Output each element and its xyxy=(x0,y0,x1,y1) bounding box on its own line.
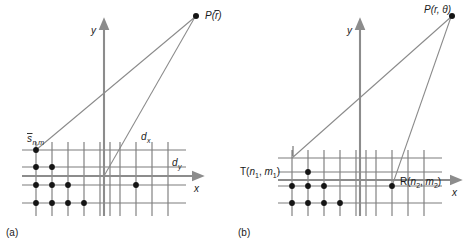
dot xyxy=(49,200,55,206)
dot xyxy=(33,200,39,206)
panel-a-label-source: s n,m xyxy=(27,133,44,146)
dot xyxy=(49,164,55,170)
panel-a-grid-vertical xyxy=(36,142,168,216)
panel-b-label-receiver: R(n2, m2) xyxy=(400,176,441,189)
panel-a-ray-from-origin xyxy=(104,17,195,176)
dot xyxy=(289,183,295,189)
svg-text:R(n2, m2): R(n2, m2) xyxy=(400,176,441,189)
panel-b-label-P: P(r, θ) xyxy=(424,4,451,15)
panel-a-label-dy: d y xyxy=(172,157,182,171)
dot xyxy=(33,182,39,188)
panel-a-label-dx: d x xyxy=(141,131,151,144)
dot xyxy=(133,182,139,188)
panel-b-rays xyxy=(292,17,451,186)
panel-a-dy-subscript: y xyxy=(177,163,182,171)
panel-b-y-axis-label: y xyxy=(346,25,353,36)
panel-a: P(r) s n,m d x d y y x xyxy=(6,10,222,238)
dot xyxy=(33,164,39,170)
panel-a-y-axis-label: y xyxy=(90,25,97,36)
panel-b-x-axis-label: x xyxy=(451,187,458,198)
panel-b-ray-from-transmitter xyxy=(292,17,451,158)
panel-a-ray-from-source xyxy=(36,17,195,150)
dot xyxy=(321,183,327,189)
panel-b-ray-from-receiver xyxy=(392,17,451,186)
svg-text:T(n1, m1): T(n1, m1) xyxy=(240,166,280,179)
panel-b-P-close: ) xyxy=(447,4,451,15)
figure-container: P(r) s n,m d x d y y x xyxy=(0,0,475,252)
dot-transmitter xyxy=(305,169,311,175)
panel-a-dx-subscript: x xyxy=(146,137,151,144)
dot xyxy=(305,200,311,206)
dot xyxy=(305,183,311,189)
dot xyxy=(337,200,343,206)
dot xyxy=(65,200,71,206)
panel-b-R-m: m xyxy=(426,176,434,187)
dot xyxy=(81,200,87,206)
dot xyxy=(49,182,55,188)
diagram-svg: P(r) s n,m d x d y y x xyxy=(0,0,475,252)
panel-b-caption: (b) xyxy=(238,227,250,238)
panel-a-caption: (a) xyxy=(6,227,18,238)
panel-a-x-axis-label: x xyxy=(193,183,200,194)
panel-b: P(r, θ) T(n1, m1) R(n2, m2) y x (b) xyxy=(238,4,458,238)
dot-s-nm xyxy=(33,147,39,153)
panel-a-rays xyxy=(36,17,195,176)
panel-b-R-close: ) xyxy=(438,176,441,187)
panel-a-point-P-marker xyxy=(193,13,199,19)
panel-b-label-transmitter: T(n1, m1) xyxy=(240,166,280,179)
dot-receiver xyxy=(389,183,395,189)
panel-b-T-close: ) xyxy=(277,166,280,177)
panel-a-P-close: ) xyxy=(217,10,221,21)
svg-text:P(r, θ): P(r, θ) xyxy=(424,4,451,15)
panel-a-source-symbol: s xyxy=(27,133,32,144)
panel-a-label-P: P(r) xyxy=(205,10,222,21)
panel-b-R-open: R( xyxy=(400,176,411,187)
dot xyxy=(65,182,71,188)
panel-b-T-m: m xyxy=(264,166,272,177)
panel-b-element-dots xyxy=(289,169,395,206)
panel-a-source-subscript: n,m xyxy=(33,139,45,146)
dot xyxy=(321,200,327,206)
svg-text:P(r): P(r) xyxy=(205,10,222,21)
dot xyxy=(289,200,295,206)
